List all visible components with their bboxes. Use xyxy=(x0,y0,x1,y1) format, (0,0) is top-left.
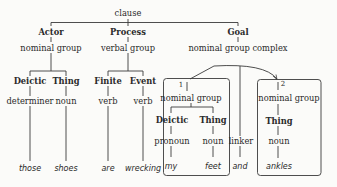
finite-function: Finite xyxy=(94,77,121,85)
unit1-thing: Thing xyxy=(199,116,226,124)
unit2-thing: Thing xyxy=(265,117,292,125)
clause-tree-diagram: clause Actor Process Goal nominal group … xyxy=(0,0,337,187)
goal-function: Goal xyxy=(227,28,248,36)
verb-class-event: verb xyxy=(134,97,153,105)
actor-group: nominal group xyxy=(20,44,81,52)
word-those: those xyxy=(19,165,41,173)
linker-class: linker xyxy=(229,137,254,145)
event-function: Event xyxy=(130,77,156,85)
deictic-function: Deictic xyxy=(14,77,47,85)
word-feet: feet xyxy=(205,163,221,171)
root-clause-label: clause xyxy=(115,9,142,17)
verb-class-finite: verb xyxy=(99,97,118,105)
determiner-class: determiner xyxy=(6,97,53,105)
word-wrecking: wrecking xyxy=(125,165,161,173)
unit1-group: nominal group xyxy=(160,94,221,102)
actor-function: Actor xyxy=(38,28,63,36)
word-ankles: ankles xyxy=(266,163,292,171)
word-shoes: shoes xyxy=(54,165,77,173)
process-function: Process xyxy=(110,28,146,36)
word-are: are xyxy=(101,165,114,173)
unit1-noun: noun xyxy=(202,137,223,145)
process-group: verbal group xyxy=(101,44,155,52)
unit2-noun: noun xyxy=(268,137,289,145)
goal-group: nominal group complex xyxy=(188,44,287,52)
word-my: my xyxy=(165,163,178,171)
unit2-index: 2 xyxy=(281,81,285,88)
unit1-pronoun: pronoun xyxy=(154,137,189,145)
unit2-group: nominal group xyxy=(258,94,319,102)
noun-class: noun xyxy=(55,97,76,105)
word-and: and xyxy=(232,163,247,171)
thing-function: Thing xyxy=(52,77,79,85)
unit1-index: 1 xyxy=(179,82,183,89)
unit1-deictic: Deictic xyxy=(156,116,189,124)
